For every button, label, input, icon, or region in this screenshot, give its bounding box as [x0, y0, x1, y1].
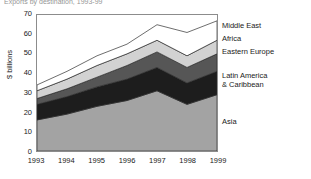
x-tick-label: 1997 [149, 156, 166, 165]
y-axis-ticks: 706050403020100 [12, 0, 32, 179]
y-tick-label: 10 [14, 128, 32, 136]
chart-figure: Exports by destination, 1993-99 $ billio… [0, 0, 311, 179]
y-tick-label: 30 [14, 89, 32, 97]
y-tick-label: 40 [14, 69, 32, 77]
x-tick-label: 1998 [179, 156, 196, 165]
plot-area [36, 14, 218, 152]
x-tick-label: 1996 [119, 156, 136, 165]
legend-label-africa: Africa [222, 35, 241, 44]
chart-title: Exports by destination, 1993-99 [4, 0, 244, 6]
y-tick-label: 20 [14, 109, 32, 117]
y-tick-label: 60 [14, 30, 32, 38]
x-axis-ticks: 1993199419951996199719981999 [36, 156, 218, 168]
x-tick-label: 1999 [210, 156, 227, 165]
legend-label-latin-america: Latin America & Caribbean [222, 72, 267, 89]
legend-label-eastern-europe: Eastern Europe [222, 48, 274, 57]
x-tick-label: 1994 [58, 156, 75, 165]
stacked-area-svg [37, 15, 217, 151]
y-tick-label: 50 [14, 49, 32, 57]
legend-label-asia: Asia [222, 118, 237, 127]
legend-label-middle-east: Middle East [222, 22, 261, 31]
x-tick-label: 1993 [28, 156, 45, 165]
y-tick-label: 70 [14, 10, 32, 18]
y-tick-label: 0 [14, 148, 32, 156]
x-tick-label: 1995 [88, 156, 105, 165]
